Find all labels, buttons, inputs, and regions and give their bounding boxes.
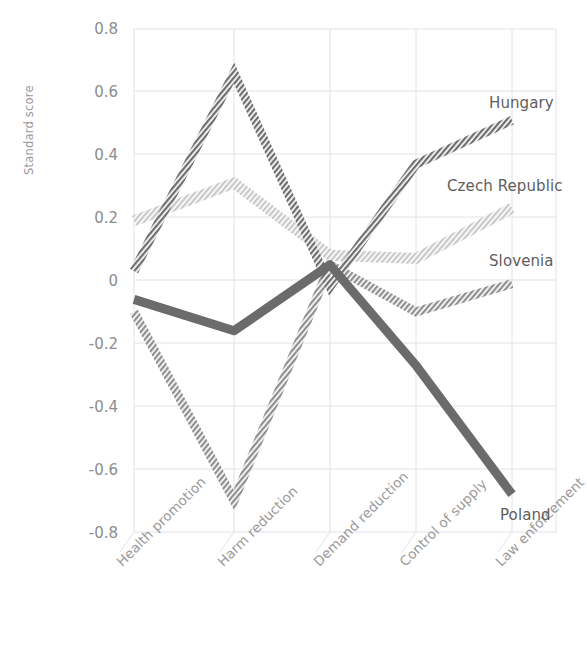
series-label-hungary: Hungary: [489, 94, 554, 112]
series-label-slovenia: Slovenia: [489, 252, 554, 270]
series-label-poland: Poland: [500, 506, 551, 524]
line-chart: Standard score 0.8 0.6 0.4 0.2 0 -0.2 -0…: [0, 0, 587, 661]
series-line-slovenia: [134, 265, 512, 501]
x-axis-tick-stems: [120, 532, 512, 552]
series-label-czech-republic: Czech Republic: [447, 177, 563, 195]
